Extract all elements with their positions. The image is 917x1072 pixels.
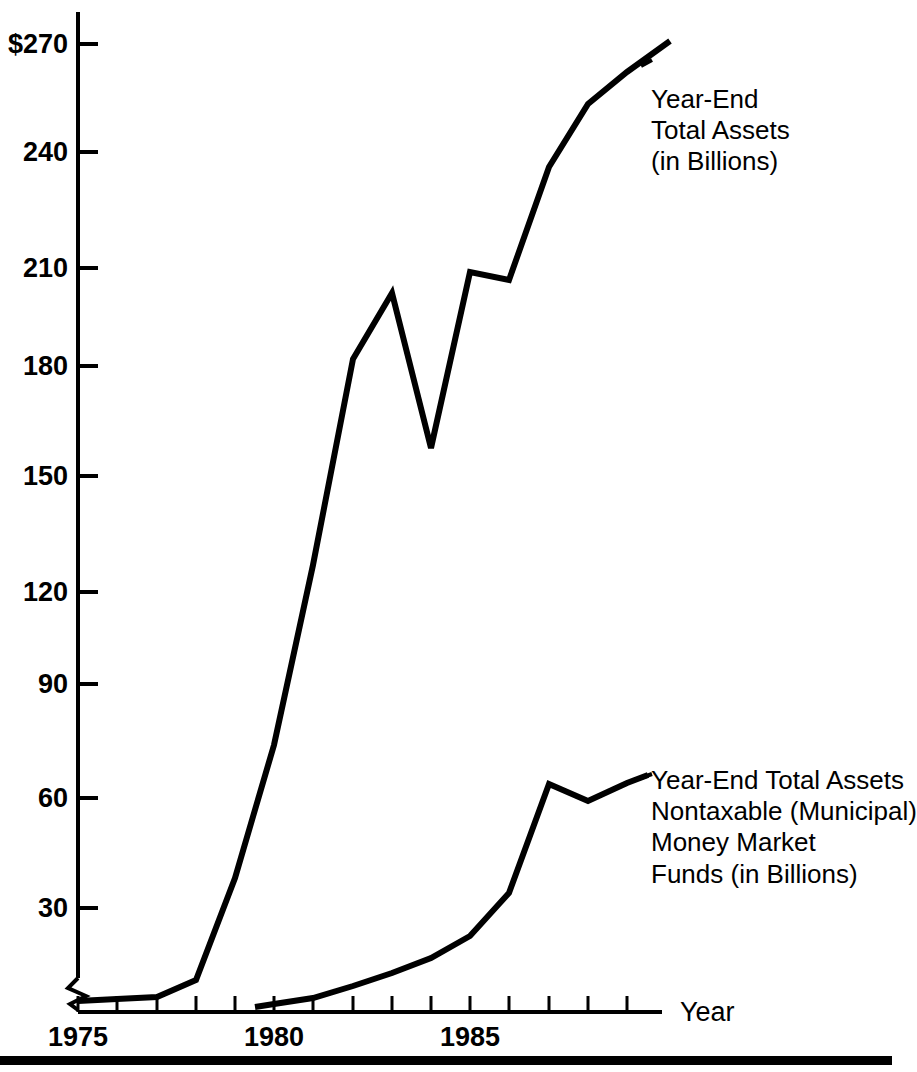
municipal-funds-annotation-leader: [638, 774, 652, 779]
y-tick-label-30: 30: [0, 895, 68, 922]
y-tick-label-240: 240: [0, 139, 68, 166]
x-tick-label-1975: 1975: [18, 1024, 138, 1051]
total-assets-annotation: Year-End Total Assets (in Billions): [651, 84, 790, 178]
y-tick-label-180: 180: [0, 353, 68, 380]
y-tick-label-150: 150: [0, 463, 68, 490]
y-axis-ticks: [78, 44, 98, 908]
y-tick-label-210: 210: [0, 255, 68, 282]
x-tick-label-1980: 1980: [214, 1024, 334, 1051]
y-tick-label-60: 60: [0, 785, 68, 812]
series-line-municipal-funds: [255, 775, 648, 1007]
x-tick-label-1985: 1985: [410, 1024, 530, 1051]
series-line-total-assets: [78, 41, 670, 1001]
y-tick-label-120: 120: [0, 579, 68, 606]
x-axis-title: Year: [680, 999, 735, 1026]
y-tick-label-270: $270: [0, 31, 68, 58]
y-tick-label-90: 90: [0, 671, 68, 698]
municipal-funds-annotation: Year-End Total Assets Nontaxable (Munici…: [651, 765, 917, 890]
bottom-rule: [0, 1056, 892, 1065]
